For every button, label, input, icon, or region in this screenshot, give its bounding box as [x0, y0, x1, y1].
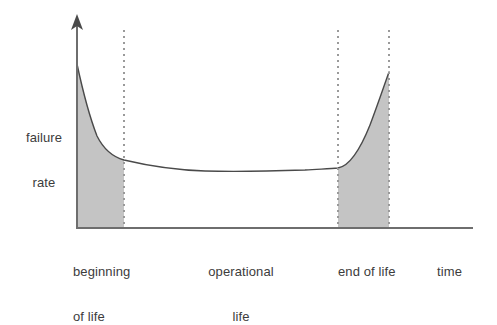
region-label-operational-life-line1: operational: [196, 264, 286, 279]
y-axis-title: failure rate: [18, 100, 70, 220]
region-label-beginning-of-life-line2: of life: [73, 309, 130, 324]
region-label-beginning-of-life: beginning of life: [73, 234, 130, 325]
region-label-operational-life: operational life: [196, 234, 286, 325]
region-label-beginning-of-life-line1: beginning: [73, 264, 130, 279]
shaded-region-beginning-of-life: [77, 64, 124, 228]
failure-rate-curve: [77, 64, 389, 171]
region-label-operational-life-line2: life: [196, 309, 286, 324]
region-label-end-of-life: end of life: [338, 234, 395, 309]
y-axis-title-line1: failure: [18, 130, 70, 145]
x-axis-title: time: [437, 234, 462, 309]
region-label-end-of-life-line1: end of life: [338, 264, 395, 279]
y-axis-title-line2: rate: [18, 175, 70, 190]
x-axis-title-text: time: [437, 264, 462, 279]
